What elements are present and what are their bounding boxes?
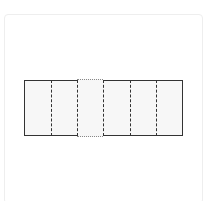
divider-3: [103, 80, 104, 136]
divider-5: [156, 80, 157, 136]
part-5: [130, 80, 156, 136]
divider-2: [77, 80, 78, 136]
part-1: [24, 80, 51, 136]
part-6: [156, 80, 183, 136]
divider-4: [130, 80, 131, 136]
part-4: [103, 80, 130, 136]
part-2: [51, 80, 77, 136]
partitioned-rectangle: [24, 80, 183, 136]
divider-1: [51, 80, 52, 136]
part-3-dotted: [77, 79, 103, 137]
